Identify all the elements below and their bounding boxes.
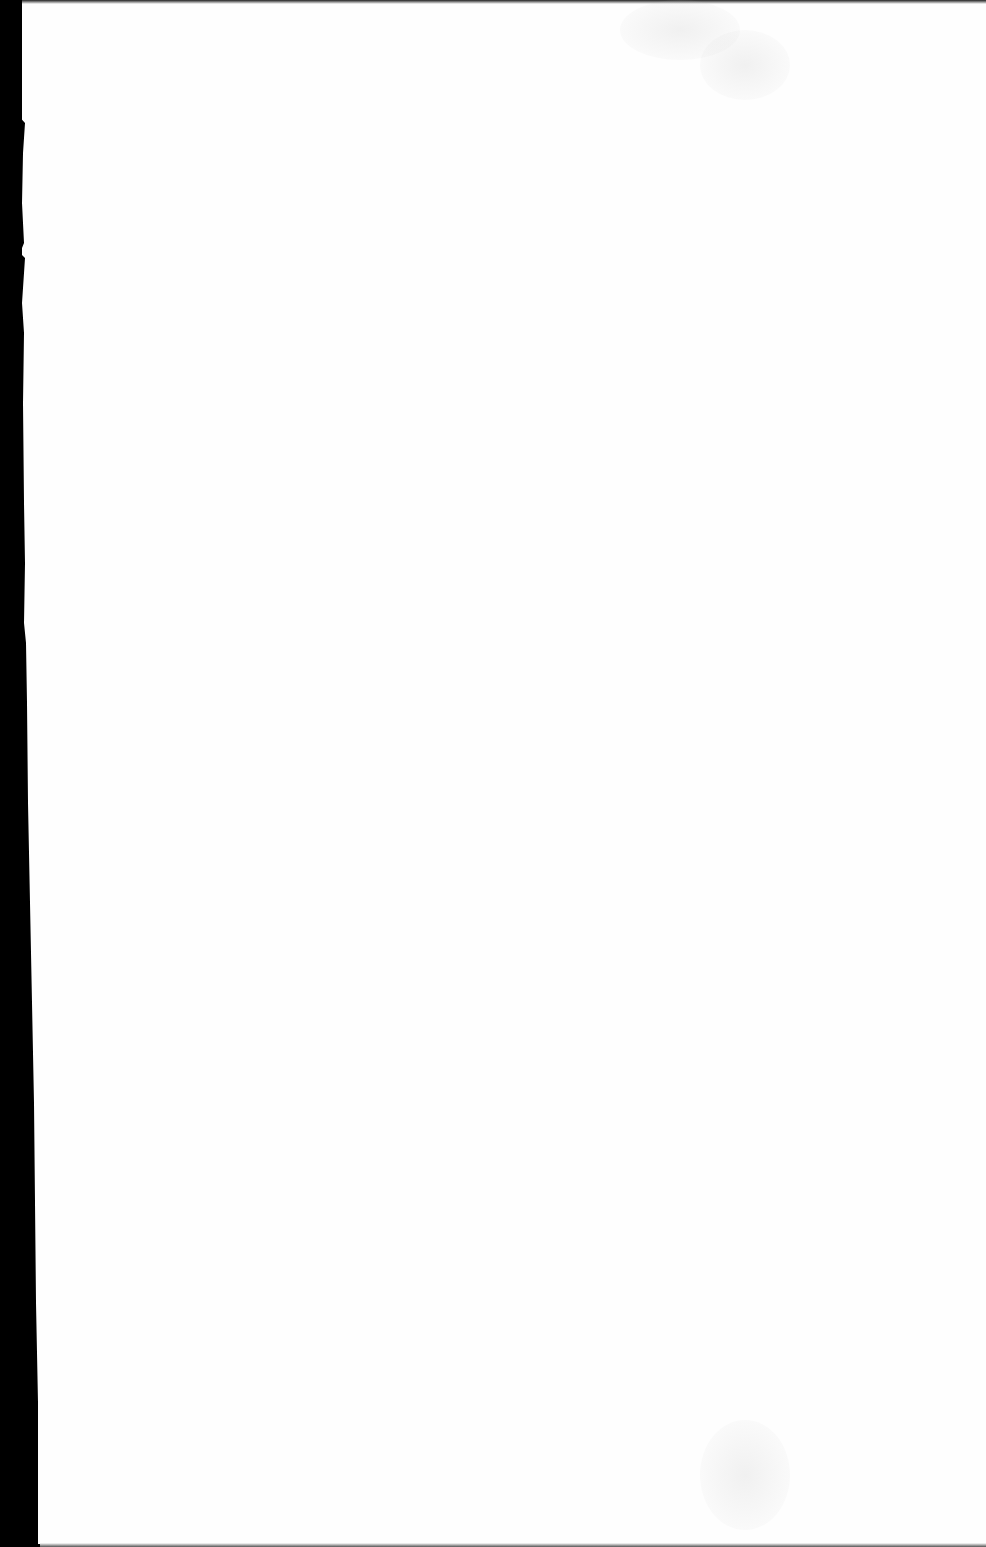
scan-smudge (700, 1420, 790, 1530)
top-edge-shadow (22, 0, 986, 4)
bottom-edge-shadow (40, 1543, 986, 1547)
scan-background (0, 0, 986, 1547)
blank-paper-page (22, 3, 986, 1544)
scan-smudge (700, 30, 790, 100)
